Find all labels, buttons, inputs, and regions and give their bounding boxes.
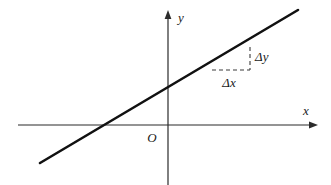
y-axis-label: y [176, 10, 184, 25]
delta-y-label: Δy [254, 49, 269, 64]
delta-x-label: Δx [221, 75, 236, 90]
figure-canvas: y x O Δy Δx [0, 0, 331, 185]
x-axis-label: x [302, 103, 309, 118]
origin-label: O [147, 130, 157, 145]
slope-diagram: y x O Δy Δx [0, 0, 331, 185]
